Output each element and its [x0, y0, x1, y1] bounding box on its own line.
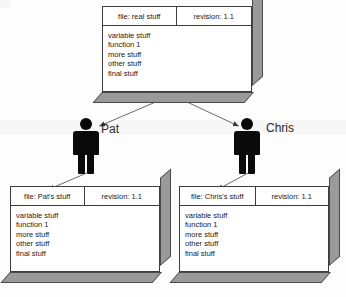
- box-front-face: file: Pat's stuff revision: 1.1 variable…: [10, 186, 160, 272]
- person-head: [80, 118, 92, 130]
- person-icon-chris[interactable]: [231, 118, 263, 174]
- content-line: variable stuff: [16, 211, 159, 220]
- file-name-cell: file: real stuff: [103, 7, 177, 25]
- person-leg-left: [239, 154, 246, 174]
- content-line: other stuff: [16, 239, 159, 248]
- file-box-chris-working-copy[interactable]: file: Chris's stuff revision: 1.1 variab…: [179, 186, 329, 272]
- box-content: variable stuff function 1 more stuff oth…: [180, 206, 328, 271]
- content-line: variable stuff: [185, 211, 328, 220]
- person-leg-left: [78, 154, 85, 174]
- content-line: final stuff: [16, 249, 159, 258]
- box-content: variable stuff function 1 more stuff oth…: [103, 26, 251, 91]
- box-header: file: Pat's stuff revision: 1.1: [11, 187, 159, 206]
- file-box-repository[interactable]: file: real stuff revision: 1.1 variable …: [102, 6, 252, 92]
- box-side-panel: [329, 168, 340, 266]
- file-box-pat-working-copy[interactable]: file: Pat's stuff revision: 1.1 variable…: [10, 186, 160, 272]
- content-line: final stuff: [185, 249, 328, 258]
- content-line: function 1: [16, 220, 159, 229]
- revision-cell: revision: 1.1: [177, 7, 252, 25]
- content-line: other stuff: [185, 239, 328, 248]
- box-bottom-panel: [169, 272, 331, 283]
- box-content: variable stuff function 1 more stuff oth…: [11, 206, 159, 271]
- person-torso: [73, 131, 99, 155]
- person-icon-pat[interactable]: [70, 118, 102, 174]
- box-front-face: file: Chris's stuff revision: 1.1 variab…: [179, 186, 329, 272]
- revision-cell: revision: 1.1: [256, 187, 329, 205]
- content-line: function 1: [185, 220, 328, 229]
- person-label-chris: Chris: [266, 121, 294, 135]
- person-leg-right: [87, 154, 94, 174]
- content-line: function 1: [108, 40, 251, 49]
- box-bottom-panel: [0, 272, 162, 283]
- person-torso: [234, 131, 260, 155]
- person-leg-right: [248, 154, 255, 174]
- file-name-cell: file: Chris's stuff: [180, 187, 256, 205]
- box-header: file: real stuff revision: 1.1: [103, 7, 251, 26]
- person-head: [241, 118, 253, 130]
- content-line: more stuff: [108, 50, 251, 59]
- content-line: variable stuff: [108, 31, 251, 40]
- person-label-pat: Pat: [101, 122, 119, 136]
- revision-cell: revision: 1.1: [85, 187, 160, 205]
- box-header: file: Chris's stuff revision: 1.1: [180, 187, 328, 206]
- box-side-panel: [252, 0, 263, 86]
- content-line: more stuff: [16, 230, 159, 239]
- file-name-cell: file: Pat's stuff: [11, 187, 85, 205]
- box-side-panel: [160, 168, 171, 266]
- diagram-canvas: file: real stuff revision: 1.1 variable …: [0, 0, 346, 297]
- content-line: more stuff: [185, 230, 328, 239]
- box-bottom-panel: [92, 92, 254, 103]
- box-front-face: file: real stuff revision: 1.1 variable …: [102, 6, 252, 92]
- content-line: other stuff: [108, 59, 251, 68]
- content-line: final stuff: [108, 69, 251, 78]
